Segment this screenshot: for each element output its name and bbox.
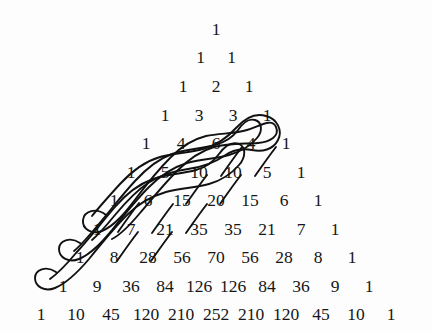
pascal-cell: 1	[97, 190, 131, 210]
pascal-cell: 1	[301, 190, 335, 210]
pascal-cell: 3	[182, 105, 216, 125]
pascal-cell: 4	[164, 133, 199, 153]
pascal-cell: 1	[216, 47, 247, 67]
pascal-row-2: 1 2 1	[0, 76, 432, 96]
pascal-cell: 15	[165, 190, 199, 210]
pascal-cell: 1	[352, 276, 386, 296]
pascal-row-1: 1 1	[0, 47, 432, 67]
pascal-triangle-numbers: 1 1 1 1 2 1 1 3 3 1 1 4 6 4 1 1 5 10	[0, 0, 432, 333]
pascal-cell: 7	[114, 219, 148, 239]
pascal-row-7: 1 7 21 35 35 21 7 1	[0, 219, 432, 239]
pascal-cell: 84	[250, 276, 284, 296]
pascal-row-6: 1 6 15 20 15 6 1	[0, 190, 432, 210]
pascal-cell: 1	[233, 76, 266, 96]
pascal-cell: 1	[24, 304, 59, 324]
pascal-cell: 126	[182, 276, 216, 296]
pascal-row-10: 1 10 45 120 210 252 210 120 45 10 1	[0, 304, 432, 324]
pascal-cell: 1	[80, 219, 114, 239]
pascal-cell: 21	[250, 219, 284, 239]
pascal-cell: 252	[199, 304, 234, 324]
pascal-cell: 126	[216, 276, 250, 296]
pascal-cell: 36	[284, 276, 318, 296]
pascal-cell: 1	[284, 162, 318, 182]
pascal-cell: 1	[46, 276, 80, 296]
pascal-cell: 1	[63, 247, 97, 267]
pascal-cell: 56	[165, 247, 199, 267]
pascal-cell: 5	[250, 162, 284, 182]
pascal-cell: 35	[182, 219, 216, 239]
pascal-row-0: 1	[0, 19, 432, 39]
pascal-cell: 28	[131, 247, 165, 267]
pascal-cell: 1	[114, 162, 148, 182]
pascal-cell: 1	[167, 76, 200, 96]
pascal-cell: 10	[59, 304, 94, 324]
pascal-cell: 120	[129, 304, 164, 324]
pascal-cell: 2	[200, 76, 233, 96]
pascal-triangle-figure: 1 1 1 1 2 1 1 3 3 1 1 4 6 4 1 1 5 10	[0, 0, 432, 333]
pascal-cell: 120	[269, 304, 304, 324]
pascal-cell: 9	[80, 276, 114, 296]
pascal-row-9: 1 9 36 84 126 126 84 36 9 1	[0, 276, 432, 296]
pascal-cell: 84	[148, 276, 182, 296]
pascal-cell: 8	[301, 247, 335, 267]
pascal-row-3: 1 3 3 1	[0, 105, 432, 125]
pascal-cell: 7	[284, 219, 318, 239]
pascal-cell: 20	[199, 190, 233, 210]
pascal-cell: 35	[216, 219, 250, 239]
pascal-cell: 70	[199, 247, 233, 267]
pascal-cell: 5	[148, 162, 182, 182]
pascal-cell: 3	[216, 105, 250, 125]
pascal-cell: 1	[129, 133, 164, 153]
pascal-cell: 1	[269, 133, 304, 153]
pascal-cell: 210	[164, 304, 199, 324]
pascal-cell: 1	[185, 47, 216, 67]
pascal-cell: 45	[304, 304, 339, 324]
pascal-cell: 6	[131, 190, 165, 210]
pascal-cell: 36	[114, 276, 148, 296]
pascal-row-8: 1 8 28 56 70 56 28 8 1	[0, 247, 432, 267]
pascal-cell: 8	[97, 247, 131, 267]
pascal-cell: 1	[374, 304, 409, 324]
pascal-row-5: 1 5 10 10 5 1	[0, 162, 432, 182]
pascal-cell: 6	[199, 133, 234, 153]
pascal-cell: 1	[148, 105, 182, 125]
pascal-cell: 28	[267, 247, 301, 267]
pascal-row-4: 1 4 6 4 1	[0, 133, 432, 153]
pascal-cell: 6	[267, 190, 301, 210]
pascal-cell: 15	[233, 190, 267, 210]
pascal-cell: 10	[216, 162, 250, 182]
pascal-cell: 56	[233, 247, 267, 267]
pascal-cell: 1	[250, 105, 284, 125]
pascal-cell: 9	[318, 276, 352, 296]
pascal-cell: 21	[148, 219, 182, 239]
pascal-cell: 45	[94, 304, 129, 324]
pascal-cell: 1	[202, 19, 230, 39]
pascal-cell: 10	[339, 304, 374, 324]
pascal-cell: 4	[234, 133, 269, 153]
pascal-cell: 1	[335, 247, 369, 267]
pascal-cell: 10	[182, 162, 216, 182]
pascal-cell: 1	[318, 219, 352, 239]
pascal-cell: 210	[234, 304, 269, 324]
